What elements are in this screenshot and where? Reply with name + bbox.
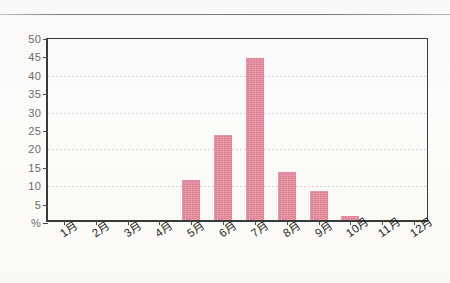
y-axis-tick-label: 10 xyxy=(28,180,41,192)
y-axis-tick-mark xyxy=(43,131,48,132)
y-axis-tick-mark xyxy=(43,57,48,58)
y-axis-tick-mark xyxy=(43,168,48,169)
bar xyxy=(278,172,296,220)
bar-chart: %5101520253035404550 1月2月3月4月5月6月7月8月9月1… xyxy=(0,0,450,283)
y-axis-tick-label: 20 xyxy=(28,143,41,155)
y-axis-tick-mark xyxy=(43,205,48,206)
gridline xyxy=(48,113,427,114)
y-axis-tick-label: 25 xyxy=(28,125,41,137)
y-axis-tick-label: % xyxy=(31,217,41,229)
y-axis-tick-label: 30 xyxy=(28,107,41,119)
gridline xyxy=(48,149,427,150)
y-axis-tick-label: 5 xyxy=(35,199,41,211)
bar xyxy=(214,135,232,220)
y-axis-tick-mark xyxy=(43,223,48,224)
plot-area: %5101520253035404550 xyxy=(46,38,428,222)
y-axis-tick-label: 50 xyxy=(28,33,41,45)
bar xyxy=(182,180,200,220)
bar xyxy=(246,58,264,220)
y-axis-tick-label: 35 xyxy=(28,88,41,100)
gridline xyxy=(48,76,427,77)
bar xyxy=(310,191,328,220)
y-axis-tick-mark xyxy=(43,39,48,40)
y-axis-tick-label: 15 xyxy=(28,162,41,174)
gridline xyxy=(48,186,427,187)
y-axis-tick-label: 45 xyxy=(28,51,41,63)
y-axis-tick-label: 40 xyxy=(28,70,41,82)
y-axis-tick-mark xyxy=(43,94,48,95)
